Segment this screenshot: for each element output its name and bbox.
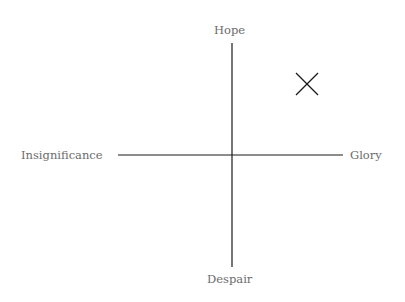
- axis-label-left: Insignificance: [21, 148, 103, 162]
- axis-label-right: Glory: [350, 148, 382, 162]
- axis-label-bottom: Despair: [207, 272, 252, 286]
- x-marker-icon: [296, 73, 318, 95]
- axis-label-top: Hope: [214, 23, 245, 37]
